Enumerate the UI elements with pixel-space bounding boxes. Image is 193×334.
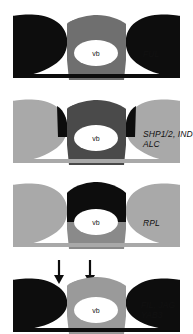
- base-strip: [13, 328, 180, 332]
- right-wing: [126, 184, 180, 246]
- panel-ful: vb FUL: [0, 8, 193, 88]
- vb-label: vb: [92, 135, 100, 142]
- left-wing: [13, 184, 67, 246]
- right-wing: [126, 15, 180, 77]
- panel-label-fil: FIL, JAG YAB3: [141, 300, 175, 320]
- meristem-cap: [67, 15, 126, 30]
- left-valve-margin: [57, 106, 67, 137]
- vb-label: vb: [92, 219, 100, 226]
- base-strip: [13, 74, 180, 78]
- arrow-left-head: [54, 275, 64, 284]
- panel-rpl-graphic: vb: [0, 177, 193, 257]
- panel-fil: vb FIL, JAG YAB3: [0, 258, 193, 334]
- meristem-diagram-figure: vb FUL vb SHP1/2, IND ALC vb: [0, 0, 193, 334]
- panel-label-shp: SHP1/2, IND ALC: [143, 129, 193, 149]
- meristem-cap: [67, 100, 126, 115]
- vb-label: vb: [92, 50, 100, 57]
- left-wing: [13, 15, 67, 77]
- base-strip: [13, 243, 180, 247]
- panel-rpl: vb RPL: [0, 177, 193, 257]
- vb-label: vb: [92, 307, 100, 314]
- arrow-left-group: [54, 260, 64, 284]
- panel-label-rpl: RPL: [143, 218, 160, 228]
- left-wing: [13, 279, 67, 331]
- panel-label-ful: FUL: [143, 49, 159, 59]
- meristem-cap: [67, 277, 126, 292]
- right-valve-margin: [126, 106, 136, 137]
- panel-shp: vb SHP1/2, IND ALC: [0, 93, 193, 173]
- panel-fil-graphic: vb: [0, 258, 193, 334]
- panel-ful-graphic: vb: [0, 8, 193, 88]
- base-strip: [13, 159, 180, 163]
